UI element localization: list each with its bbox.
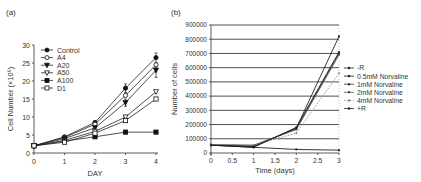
legend-item: 0.5mM Norvaline	[344, 73, 409, 80]
y-tick-label: 800000	[185, 36, 207, 43]
legend-label: A4	[57, 54, 66, 61]
series-line	[211, 52, 339, 147]
legend-marker-icon	[348, 107, 350, 109]
legend-item: Control	[41, 47, 80, 54]
legend-label: A50	[57, 69, 70, 76]
legend-label: -R	[357, 64, 364, 71]
open-square-marker-icon	[45, 86, 49, 90]
legend-marker-icon	[348, 75, 350, 77]
x-tick-label: 3	[337, 157, 341, 164]
open-circle-marker-icon	[123, 93, 127, 97]
legend-marker-icon	[348, 67, 350, 69]
legend-label: A100	[57, 77, 73, 84]
legend-item: D1	[41, 85, 66, 92]
open-square-marker-icon	[154, 97, 158, 101]
y-tick-label: 500000	[185, 78, 207, 85]
legend-item: A50	[41, 69, 70, 76]
legend-marker-icon	[348, 83, 350, 85]
filled-circle-marker-icon	[45, 48, 49, 52]
filled-circle-marker-icon	[154, 56, 158, 60]
y-tick-label: 600000	[185, 64, 207, 71]
x-tick-label: 2	[93, 158, 97, 165]
series-line	[211, 55, 339, 145]
legend-label: 4mM Norvaline	[357, 97, 403, 104]
filled-square-marker-icon	[154, 130, 158, 134]
y-tick-label: 200000	[185, 121, 207, 128]
open-square-marker-icon	[62, 140, 66, 144]
x-tick-label: 0	[32, 158, 36, 165]
open-square-marker-icon	[32, 144, 36, 148]
y-tick-label: 20	[22, 78, 30, 85]
chart-b: 0100000200000300000400000500000600000700…	[185, 21, 408, 164]
filled-square-marker-icon	[123, 130, 127, 134]
y-tick-label: 0	[26, 150, 30, 157]
legend-marker-icon	[348, 91, 350, 93]
x-tick-label: 3	[124, 158, 128, 165]
legend-label: D1	[57, 85, 66, 92]
filled-triangle-down-marker-icon	[123, 101, 128, 106]
series-line	[211, 36, 339, 146]
chart-b-xlabel: Time (days)	[255, 166, 295, 175]
x-tick-label: 2.5	[313, 157, 323, 164]
chart-a-xlabel: DAY	[88, 169, 103, 178]
series-line	[211, 73, 339, 145]
open-circle-marker-icon	[154, 63, 158, 67]
y-tick-label: 100000	[185, 135, 207, 142]
filled-square-marker-icon	[45, 78, 49, 82]
legend-item: 2mM Norvaline	[344, 89, 403, 96]
y-tick-label: 400000	[185, 92, 207, 99]
x-tick-label: 1	[63, 158, 67, 165]
chart-a: 05101520253001234ControlA4A20A50A100D1	[22, 42, 158, 166]
x-tick-label: 2	[294, 157, 298, 164]
legend-item: A4	[41, 54, 66, 61]
legend-label: 1mM Norvaline	[357, 81, 403, 88]
y-tick-label: 300000	[185, 107, 207, 114]
legend-item: A100	[41, 77, 73, 84]
legend-label: 2mM Norvaline	[357, 89, 403, 96]
open-square-marker-icon	[93, 131, 97, 135]
figure: (a) (b) 05101520253001234ControlA4A20A50…	[0, 0, 421, 182]
x-tick-label: 0.5	[228, 157, 238, 164]
y-tick-label: 900000	[185, 21, 207, 28]
legend-marker-icon	[348, 99, 350, 101]
y-tick-label: 5	[26, 132, 30, 139]
x-tick-label: 1.5	[270, 157, 280, 164]
legend-item: +R	[344, 105, 366, 112]
legend-item: -R	[344, 64, 364, 71]
legend-label: 0.5mM Norvaline	[357, 73, 409, 80]
filled-circle-marker-icon	[123, 86, 127, 90]
legend-item: 4mM Norvaline	[344, 97, 403, 104]
legend-label: A20	[57, 62, 70, 69]
chart-b-ylabel: Number of cells	[170, 63, 179, 115]
legend-item: A20	[41, 62, 70, 69]
y-tick-label: 10	[22, 114, 30, 121]
legend-label: Control	[57, 47, 80, 54]
y-tick-label: 25	[22, 60, 30, 67]
y-tick-label: 700000	[185, 50, 207, 57]
y-tick-label: 30	[22, 42, 30, 49]
x-tick-label: 1	[252, 157, 256, 164]
open-square-marker-icon	[123, 119, 127, 123]
legend-label: +R	[357, 105, 366, 112]
x-tick-label: 0	[209, 157, 213, 164]
y-tick-label: 0	[203, 149, 207, 156]
chart-a-ylabel: Cell Number (×10⁶)	[6, 66, 15, 131]
legend-item: 1mM Norvaline	[344, 81, 403, 88]
y-tick-label: 15	[22, 96, 30, 103]
x-tick-label: 4	[154, 158, 158, 165]
panel-b-label: (b)	[171, 8, 181, 17]
open-circle-marker-icon	[45, 56, 49, 60]
open-triangle-down-marker-icon	[154, 90, 159, 95]
panel-a-label: (a)	[6, 8, 16, 17]
